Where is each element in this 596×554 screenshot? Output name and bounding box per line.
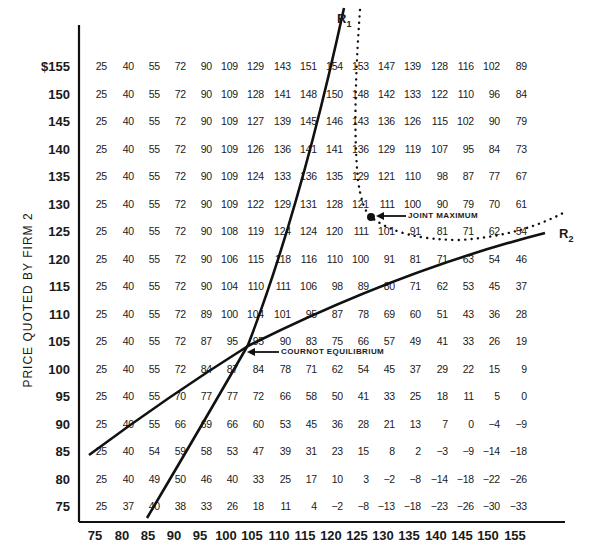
cournot-arrowhead: [247, 348, 255, 356]
table-cell: 72: [160, 88, 186, 100]
table-cell: 87: [212, 363, 238, 375]
table-cell: 136: [265, 143, 291, 155]
table-cell: 63: [448, 253, 474, 265]
table-cell: 66: [265, 390, 291, 402]
table-cell: 33: [448, 335, 474, 347]
table-cell: 5: [474, 390, 500, 402]
table-cell: 102: [448, 115, 474, 127]
table-cell: 84: [238, 363, 264, 375]
table-cell: 47: [238, 445, 264, 457]
table-cell: 54: [134, 445, 160, 457]
table-cell: 46: [501, 253, 527, 265]
table-cell: 53: [448, 280, 474, 292]
table-cell: 87: [317, 308, 343, 320]
table-cell: 25: [81, 115, 107, 127]
table-cell: 136: [291, 170, 317, 182]
r2-label: R2: [559, 226, 573, 244]
table-cell: 58: [186, 445, 212, 457]
table-cell: 90: [186, 198, 212, 210]
table-cell: 154: [317, 60, 343, 72]
table-cell: 13: [395, 418, 421, 430]
table-cell: 71: [291, 363, 317, 375]
table-cell: 89: [186, 308, 212, 320]
table-cell: −8: [395, 473, 421, 485]
table-cell: 19: [501, 335, 527, 347]
table-cell: 129: [369, 143, 395, 155]
table-cell: 26: [212, 500, 238, 512]
table-cell: 95: [448, 143, 474, 155]
table-cell: 148: [343, 88, 369, 100]
table-cell: 54: [501, 225, 527, 237]
table-cell: 45: [291, 418, 317, 430]
table-cell: 25: [81, 363, 107, 375]
table-cell: 116: [448, 60, 474, 72]
table-cell: 11: [265, 500, 291, 512]
table-cell: 91: [395, 225, 421, 237]
table-cell: 126: [238, 143, 264, 155]
table-cell: 148: [291, 88, 317, 100]
y-tick-label: 90: [26, 417, 70, 432]
table-cell: 39: [265, 445, 291, 457]
table-cell: 91: [369, 253, 395, 265]
payoff-table-figure: 2540557290109129143151154153147139128116…: [0, 0, 596, 554]
table-cell: 133: [395, 88, 421, 100]
table-cell: 67: [501, 170, 527, 182]
table-cell: 126: [395, 115, 421, 127]
table-cell: 51: [422, 308, 448, 320]
table-cell: 109: [212, 115, 238, 127]
table-cell: 73: [501, 143, 527, 155]
table-cell: 55: [134, 115, 160, 127]
table-cell: 31: [291, 445, 317, 457]
y-tick-label: 80: [26, 472, 70, 487]
table-cell: 18: [238, 500, 264, 512]
table-cell: 100: [343, 253, 369, 265]
table-cell: 141: [265, 88, 291, 100]
table-cell: 29: [422, 363, 448, 375]
x-tick-label: 155: [499, 528, 531, 543]
table-cell: 70: [474, 198, 500, 210]
table-cell: 50: [317, 390, 343, 402]
table-cell: −33: [501, 500, 527, 512]
table-cell: 69: [369, 308, 395, 320]
table-cell: 90: [186, 143, 212, 155]
table-cell: 90: [186, 253, 212, 265]
table-cell: 25: [81, 335, 107, 347]
table-cell: 25: [395, 390, 421, 402]
table-cell: 71: [448, 225, 474, 237]
table-cell: 98: [317, 280, 343, 292]
table-cell: 23: [317, 445, 343, 457]
table-cell: 83: [291, 335, 317, 347]
table-cell: 55: [134, 225, 160, 237]
table-cell: 107: [422, 143, 448, 155]
table-cell: 36: [317, 418, 343, 430]
table-cell: 22: [448, 363, 474, 375]
table-cell: 136: [343, 143, 369, 155]
table-cell: 72: [160, 363, 186, 375]
table-cell: 84: [501, 88, 527, 100]
table-cell: 40: [108, 363, 134, 375]
table-cell: 151: [291, 60, 317, 72]
table-cell: 25: [81, 143, 107, 155]
table-cell: 41: [343, 390, 369, 402]
table-cell: 37: [108, 500, 134, 512]
table-cell: 141: [317, 143, 343, 155]
table-cell: 55: [134, 198, 160, 210]
table-cell: 90: [186, 88, 212, 100]
table-cell: 72: [160, 198, 186, 210]
table-cell: 25: [81, 445, 107, 457]
table-cell: −22: [474, 473, 500, 485]
table-cell: 109: [212, 88, 238, 100]
table-cell: 139: [265, 115, 291, 127]
table-cell: 21: [369, 418, 395, 430]
table-cell: 4: [291, 500, 317, 512]
table-cell: 89: [343, 280, 369, 292]
table-cell: 102: [474, 60, 500, 72]
table-cell: 40: [108, 198, 134, 210]
table-cell: −2: [369, 473, 395, 485]
y-tick-label: 145: [26, 114, 70, 129]
table-cell: 40: [108, 390, 134, 402]
table-cell: −4: [474, 418, 500, 430]
table-cell: 143: [343, 115, 369, 127]
table-cell: 57: [369, 335, 395, 347]
table-cell: 66: [212, 418, 238, 430]
